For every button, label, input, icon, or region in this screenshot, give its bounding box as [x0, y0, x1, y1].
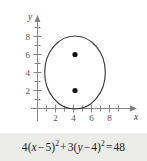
caption-band: 4(x−5)2+3(y−4)2=48 [0, 133, 147, 161]
y-tick-label-4: 4 [26, 68, 31, 78]
eq-equals: = [105, 141, 114, 153]
eq-var-y: y [77, 141, 82, 153]
x-axis-arrow-icon [130, 106, 137, 112]
coordinate-plot: 2 4 6 8 2 4 6 8 x y [0, 0, 147, 133]
y-tick-label-2: 2 [26, 86, 31, 96]
x-axis-label: x [133, 112, 139, 122]
ellipse-figure: 2 4 6 8 2 4 6 8 x y 4(x−5)2+3(y−4)2=48 [0, 0, 147, 161]
ellipse-curve [45, 36, 106, 109]
focus-point-upper [72, 52, 77, 57]
x-tick-label-4: 4 [71, 113, 76, 123]
focus-point-lower [72, 88, 77, 93]
equation-caption: 4(x−5)2+3(y−4)2=48 [22, 141, 125, 153]
y-tick-label-6: 6 [26, 50, 31, 60]
x-tick-label-2: 2 [53, 113, 58, 123]
y-tick-label-8: 8 [26, 32, 31, 42]
eq-rhs: 48 [114, 141, 126, 153]
eq-plus: + [59, 141, 68, 153]
x-tick-label-8: 8 [107, 113, 112, 123]
eq-minus-2: − [83, 141, 92, 153]
y-axis-label: y [27, 12, 33, 22]
eq-var-x: x [32, 141, 37, 153]
x-tick-label-6: 6 [89, 113, 94, 123]
y-axis-arrow-icon [35, 15, 41, 22]
plot-svg: 2 4 6 8 2 4 6 8 x y [0, 0, 147, 133]
